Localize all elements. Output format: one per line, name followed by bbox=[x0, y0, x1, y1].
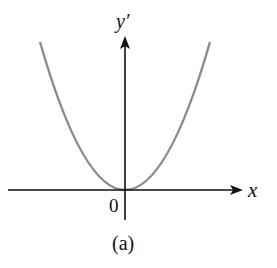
origin-label: 0 bbox=[109, 195, 119, 217]
diagram-canvas bbox=[0, 0, 277, 268]
y-axis-label: y′ bbox=[116, 10, 129, 33]
figure-caption: (a) bbox=[112, 232, 134, 255]
x-axis-label: x bbox=[248, 178, 257, 203]
